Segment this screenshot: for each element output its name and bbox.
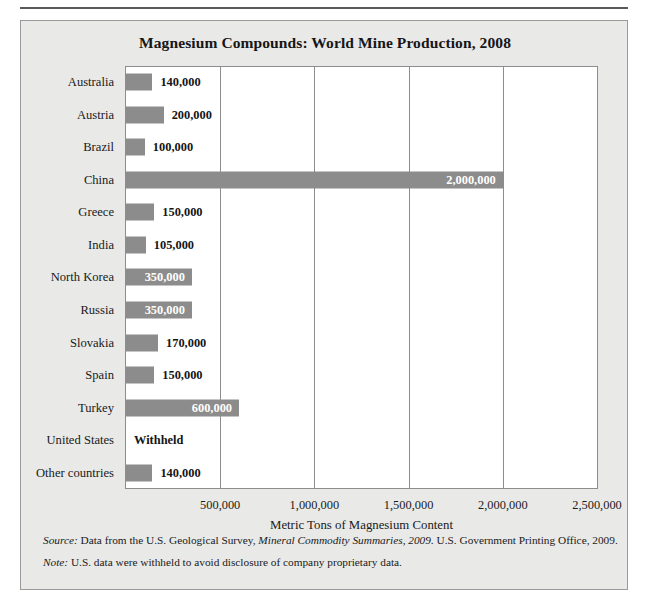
plot-region: Australia140,000Austria200,000Brazil100,… [125, 66, 598, 489]
category-label: China [84, 172, 114, 187]
bar-row: Other countries140,000 [125, 456, 598, 489]
bar-row: Australia140,000 [125, 66, 598, 99]
bar-row: North Korea350,000 [125, 261, 598, 294]
category-label: Slovakia [70, 335, 114, 350]
bar [126, 139, 145, 156]
bar [126, 334, 158, 351]
category-label: Brazil [83, 140, 114, 155]
bar-value-label: 350,000 [145, 303, 185, 318]
source-label: Source: [43, 534, 78, 546]
bar-value-label: 105,000 [154, 237, 194, 252]
bar-row: Russia350,000 [125, 294, 598, 327]
category-label: Turkey [78, 400, 114, 415]
bar-row: China2,000,000 [125, 164, 598, 197]
bar-row: Brazil100,000 [125, 131, 598, 164]
category-label: Austria [77, 107, 114, 122]
x-axis-tick-label: 2,000,000 [478, 498, 528, 513]
bar-row: Turkey600,000 [125, 391, 598, 424]
category-label: Australia [68, 75, 114, 90]
bar-value-label: 600,000 [192, 400, 232, 415]
bar-value-label: 100,000 [153, 140, 193, 155]
bar-value-label: 140,000 [160, 75, 200, 90]
category-label: Greece [78, 205, 114, 220]
bar-row: Spain150,000 [125, 359, 598, 392]
note-label: Note: [43, 556, 68, 568]
x-axis-tick-label: 1,000,000 [290, 498, 340, 513]
bar [126, 106, 164, 123]
chart-title: Magnesium Compounds: World Mine Producti… [21, 34, 629, 52]
footnotes: Source: Data from the U.S. Geological Su… [43, 529, 613, 573]
bar [126, 367, 154, 384]
bar [126, 204, 154, 221]
category-label: India [88, 237, 114, 252]
bar-row-group: Australia140,000Austria200,000Brazil100,… [125, 66, 598, 489]
bar-row: Austria200,000 [125, 99, 598, 132]
top-divider-rule [20, 7, 628, 9]
x-axis-tick-label: 2,500,000 [572, 498, 622, 513]
bar [126, 74, 152, 91]
source-note: Source: Data from the U.S. Geological Su… [43, 529, 613, 551]
bar-row: Slovakia170,000 [125, 326, 598, 359]
bar-value-label: 150,000 [162, 205, 202, 220]
x-axis-tick-label: 500,000 [200, 498, 240, 513]
bar-value-label: 2,000,000 [446, 172, 496, 187]
source-text-b: U.S. Government Printing Office, 2009. [434, 534, 618, 546]
figure-container: Magnesium Compounds: World Mine Producti… [20, 20, 628, 590]
note-text: U.S. data were withheld to avoid disclos… [68, 556, 402, 568]
bar-value-label: 200,000 [172, 107, 212, 122]
bar-row: Greece150,000 [125, 196, 598, 229]
bar-value-label: 170,000 [166, 335, 206, 350]
bar-value-label: 150,000 [162, 368, 202, 383]
source-text-a: Data from the U.S. Geological Survey, [78, 534, 259, 546]
source-publication-title: Mineral Commodity Summaries, 2009. [258, 534, 433, 546]
category-label: United States [46, 433, 114, 448]
category-label: North Korea [51, 270, 114, 285]
category-label: Russia [80, 303, 114, 318]
bar-value-label: Withheld [134, 433, 183, 448]
category-label: Spain [85, 368, 114, 383]
bar [126, 464, 152, 481]
bar-row: United StatesWithheld [125, 424, 598, 457]
bar-value-label: 140,000 [160, 465, 200, 480]
x-axis-tick-label: 1,500,000 [384, 498, 434, 513]
bar-value-label: 350,000 [145, 270, 185, 285]
bar-row: India105,000 [125, 229, 598, 262]
bar [126, 236, 146, 253]
category-label: Other countries [36, 465, 114, 480]
disclosure-note: Note: U.S. data were withheld to avoid d… [43, 551, 613, 573]
